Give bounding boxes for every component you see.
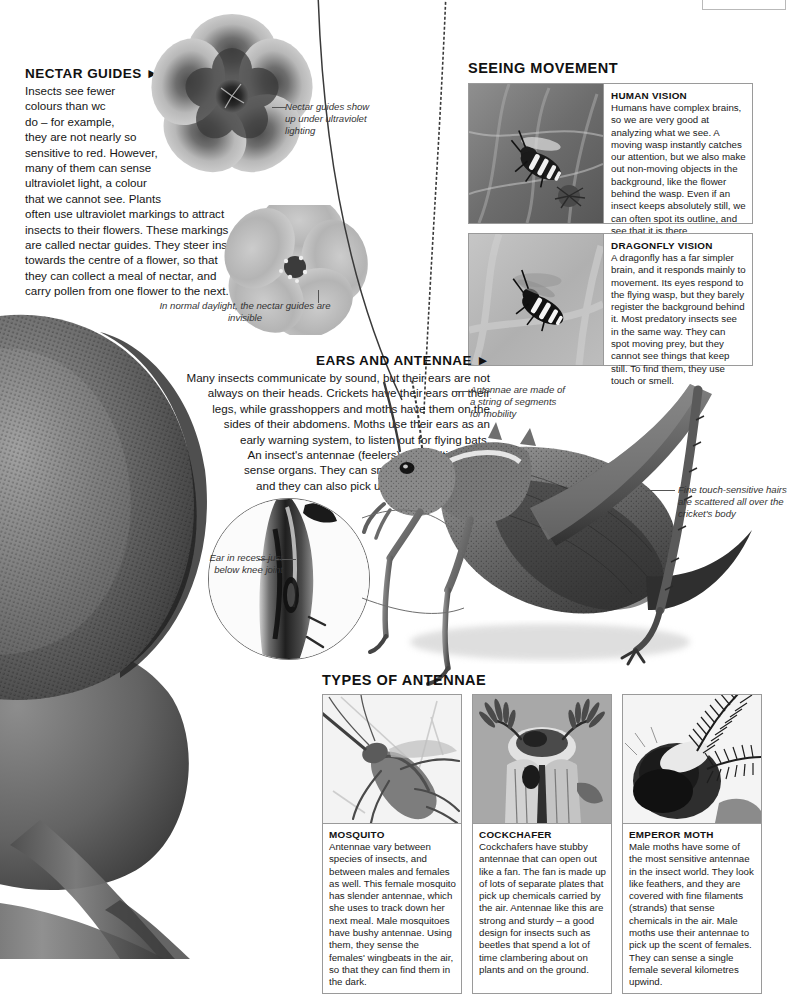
hairs-note: Fine touch-sensitive hairs are scattered… xyxy=(678,484,788,521)
antenna-card-mosquito: MOSQUITO Antennae vary between species o… xyxy=(322,694,462,994)
antennae-note-leader-line xyxy=(452,391,469,392)
antenna-card-cockchafer: COCKCHAFER Cockchafers have stubby anten… xyxy=(472,694,612,994)
emperor-moth-body: Male moths have some of the most sensiti… xyxy=(629,841,756,989)
ears-and-antennae-heading: EARS AND ANTENNAE ► xyxy=(140,353,490,368)
mosquito-body: Antennae vary between species of insects… xyxy=(329,841,456,989)
magnifier-connector-lines xyxy=(360,498,480,638)
types-of-antennae-section: TYPES OF ANTENNAE xyxy=(322,672,762,994)
daylight-flower-caption: In normal daylight, the nectar guides ar… xyxy=(150,300,340,324)
uv-caption-leader-line xyxy=(272,107,286,108)
hairs-note-leader-line xyxy=(645,490,675,491)
cockchafer-title: COCKCHAFER xyxy=(479,829,606,840)
ear-note: Ear in recess just below knee joint xyxy=(205,552,283,576)
emperor-moth-text: EMPEROR MOTH Male moths have some of the… xyxy=(623,824,761,993)
human-vision-body: Humans have complex brains, so we are ve… xyxy=(611,102,746,237)
human-vision-text: HUMAN VISION Humans have complex brains,… xyxy=(604,84,752,223)
mosquito-head-photo xyxy=(323,695,461,824)
cockchafer-text: COCKCHAFER Cockchafers have stubby anten… xyxy=(473,824,611,980)
corner-crop-mark xyxy=(702,0,786,10)
types-of-antennae-title: TYPES OF ANTENNAE xyxy=(322,672,762,688)
emperor-moth-head-photo xyxy=(623,695,761,824)
antenna-card-emperor-moth: EMPEROR MOTH Male moths have some of the… xyxy=(622,694,762,994)
seeing-movement-section: SEEING MOVEMENT xyxy=(468,60,753,366)
wasp-on-plant-photo xyxy=(469,84,604,223)
antennae-note: Antennae are made of a string of segment… xyxy=(470,384,565,421)
dragonfly-vision-panel: DRAGONFLY VISION A dragonfly has a far s… xyxy=(468,233,753,366)
emperor-moth-title: EMPEROR MOTH xyxy=(629,829,756,840)
daylight-caption-leader-line xyxy=(318,290,319,303)
cricket-leg-ear-closeup-photo xyxy=(208,498,370,660)
dragonfly-vision-body: A dragonfly has a far simpler brain, and… xyxy=(611,252,746,387)
human-vision-panel: HUMAN VISION Humans have complex brains,… xyxy=(468,83,753,224)
uv-flower-caption: Nectar guides show up under ultraviolet … xyxy=(285,101,375,138)
mosquito-title: MOSQUITO xyxy=(329,829,456,840)
mosquito-text: MOSQUITO Antennae vary between species o… xyxy=(323,824,461,993)
dragonfly-vision-text: DRAGONFLY VISION A dragonfly has a far s… xyxy=(604,234,752,365)
human-vision-title: HUMAN VISION xyxy=(611,90,746,101)
seeing-movement-title: SEEING MOVEMENT xyxy=(468,60,753,76)
cockchafer-body: Cockchafers have stubby antennae that ca… xyxy=(479,841,606,976)
dragonfly-vision-title: DRAGONFLY VISION xyxy=(611,240,746,251)
cockchafer-head-photo xyxy=(473,695,611,824)
wasp-blurred-background-photo xyxy=(469,234,604,365)
